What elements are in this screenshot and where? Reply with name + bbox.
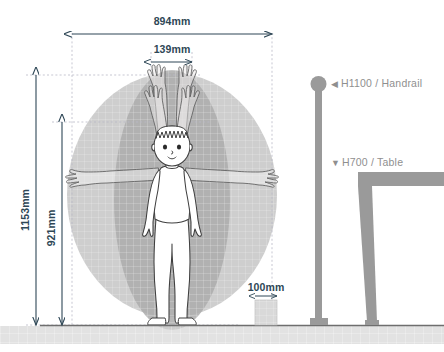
table-top bbox=[358, 172, 444, 186]
dimension-mid-height: 921mm bbox=[45, 122, 62, 325]
dimension-max-height: 1153mm bbox=[19, 75, 36, 325]
dim-label-921: 921mm bbox=[45, 210, 57, 247]
dim-label-894: 894mm bbox=[154, 15, 191, 27]
dim-label-139: 139mm bbox=[154, 43, 191, 55]
annotation-handrail: ◀ H1100 / Handrail bbox=[331, 77, 422, 89]
ground bbox=[0, 326, 444, 345]
dimension-inner-width: 139mm bbox=[151, 43, 192, 62]
triangle-left-icon: ◀ bbox=[331, 79, 338, 89]
diagram-canvas: 894mm 139mm 1153mm 921mm 100mm bbox=[0, 0, 444, 352]
child-foot-left bbox=[148, 318, 166, 325]
annotation-table: ▼ H700 / Table bbox=[331, 156, 403, 168]
handrail-post bbox=[315, 88, 322, 320]
dim-label-1153: 1153mm bbox=[19, 189, 31, 231]
table-foot bbox=[365, 320, 379, 325]
triangle-down-icon: ▼ bbox=[331, 158, 340, 168]
table bbox=[358, 172, 444, 325]
annotation-handrail-label: H1100 / Handrail bbox=[341, 77, 422, 89]
annotation-table-label: H700 / Table bbox=[342, 156, 403, 168]
anthropometric-diagram: 894mm 139mm 1153mm 921mm 100mm bbox=[0, 0, 444, 352]
child-ear-right bbox=[190, 144, 192, 151]
child-eye-right bbox=[177, 144, 181, 149]
dimension-span-width: 894mm bbox=[72, 15, 272, 34]
child-foot-right bbox=[178, 318, 196, 325]
step-block-group: 100mm bbox=[248, 281, 285, 325]
child-hair bbox=[156, 126, 188, 138]
handrail bbox=[310, 76, 328, 325]
child-eye-left bbox=[163, 144, 167, 149]
handrail-knob bbox=[311, 76, 327, 92]
table-leg bbox=[358, 186, 377, 322]
child-ear-left bbox=[152, 144, 154, 151]
dim-label-100: 100mm bbox=[248, 281, 285, 293]
